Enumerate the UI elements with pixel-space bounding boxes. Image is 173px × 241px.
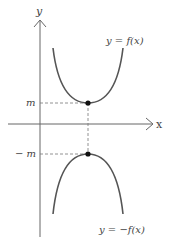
curve-f-label: y = f(x) (105, 35, 144, 46)
min-point (85, 100, 90, 105)
max-point (85, 151, 90, 156)
curve-neg-f-label: y = −f(x) (98, 224, 145, 235)
curve-neg-f (53, 154, 123, 214)
neg-m-label: − m (15, 148, 36, 159)
x-axis-label: x (156, 118, 163, 131)
curve-f (53, 48, 123, 103)
y-axis-label: y (35, 5, 43, 18)
diagram-canvas: y x y = f(x) y = −f(x) m − m (0, 0, 173, 241)
m-label: m (26, 97, 35, 108)
